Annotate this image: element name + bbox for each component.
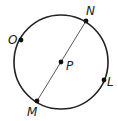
point-p (59, 60, 64, 65)
label-m: M (27, 105, 38, 119)
label-l: L (107, 75, 114, 89)
circle-diagram: N O P L M (0, 0, 118, 121)
point-m (35, 99, 40, 104)
label-p: P (66, 59, 74, 73)
point-o (19, 38, 24, 43)
label-n: N (86, 4, 95, 18)
label-o: O (8, 33, 17, 47)
point-l (102, 78, 107, 83)
point-n (84, 19, 89, 24)
